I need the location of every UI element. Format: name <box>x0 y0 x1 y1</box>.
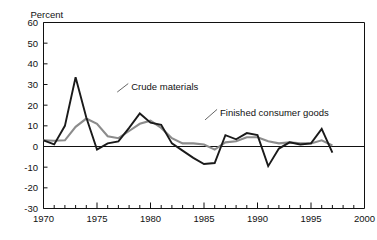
line-chart: 6050403020100-10-20-30197019751980198519… <box>0 0 377 240</box>
x-tick-label: 2000 <box>354 213 375 224</box>
crude-materials-label: Crude materials <box>131 81 198 92</box>
finished-consumer-goods-leader-line <box>205 109 217 120</box>
y-tick-label: -20 <box>24 182 38 193</box>
y-tick-label: 20 <box>27 100 38 111</box>
crude-materials-leader-line <box>117 84 128 93</box>
x-tick-label: 1990 <box>247 213 268 224</box>
x-tick-label: 1975 <box>86 213 107 224</box>
x-tick-label: 1970 <box>33 213 54 224</box>
x-tick-label: 1985 <box>193 213 214 224</box>
series-line-finished-consumer-goods <box>44 119 333 150</box>
y-tick-label: 50 <box>27 38 38 49</box>
y-tick-label: 10 <box>27 120 38 131</box>
x-axis-ticks: 1970197519801985199019952000 <box>33 203 375 224</box>
x-tick-label: 1995 <box>300 213 321 224</box>
y-axis-ticks: 6050403020100-10-20-30 <box>24 17 47 214</box>
y-axis-unit-label: Percent <box>31 9 64 20</box>
y-tick-label: 40 <box>27 58 38 69</box>
finished-consumer-goods-label: Finished consumer goods <box>220 107 329 118</box>
y-tick-label: -10 <box>24 162 38 173</box>
chart-container: 6050403020100-10-20-30197019751980198519… <box>0 0 377 240</box>
y-tick-label: 30 <box>27 79 38 90</box>
y-tick-label: 0 <box>33 141 38 152</box>
x-tick-label: 1980 <box>140 213 161 224</box>
